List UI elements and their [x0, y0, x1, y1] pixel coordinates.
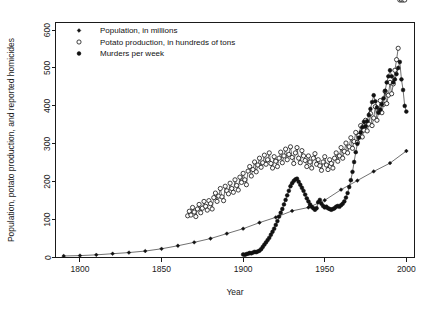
data-point	[396, 46, 400, 50]
data-point	[365, 119, 369, 123]
data-point	[346, 191, 350, 195]
data-point	[300, 149, 304, 153]
y-tick-label: 0	[43, 255, 53, 260]
data-point	[195, 207, 199, 211]
data-point	[282, 203, 286, 207]
y-axis-title: Population, potato production, and repor…	[6, 38, 16, 242]
data-point	[287, 189, 291, 193]
data-point	[318, 198, 322, 202]
data-point	[318, 164, 322, 168]
x-tick-label: 1900	[234, 264, 253, 274]
data-point	[310, 166, 314, 170]
data-point	[270, 166, 274, 170]
data-point	[404, 110, 408, 114]
data-point	[326, 167, 330, 171]
data-point	[373, 99, 377, 103]
y-tick-label: 100	[43, 212, 53, 226]
data-point	[280, 207, 284, 211]
data-point	[277, 215, 281, 219]
data-point	[302, 189, 306, 193]
data-point	[208, 202, 212, 206]
data-point	[350, 146, 354, 150]
data-point	[393, 77, 397, 81]
data-point	[403, 0, 407, 2]
data-point	[210, 207, 214, 211]
data-point	[202, 199, 206, 203]
data-point	[401, 88, 405, 92]
legend-label: Population, in millions	[100, 26, 177, 35]
data-point	[257, 156, 261, 160]
y-tick-label: 300	[43, 136, 53, 150]
data-point	[288, 145, 292, 149]
chart-canvas: 0100200300400500600 18001850190019502000…	[0, 0, 433, 312]
y-tick-label: 500	[43, 61, 53, 75]
data-point	[238, 175, 242, 179]
data-point	[375, 118, 379, 122]
data-point	[385, 80, 389, 84]
data-point	[231, 190, 235, 194]
data-point	[212, 196, 216, 200]
data-point	[369, 107, 373, 111]
data-point	[354, 150, 358, 154]
data-point	[233, 178, 237, 182]
data-point	[274, 223, 278, 227]
data-point	[293, 151, 297, 155]
data-point	[298, 161, 302, 165]
data-point	[342, 200, 346, 204]
data-point	[390, 74, 394, 78]
data-point	[388, 68, 392, 72]
data-point	[243, 178, 247, 182]
data-point	[190, 205, 194, 209]
legend-marker-filled-circle	[77, 52, 81, 56]
data-point	[331, 166, 335, 170]
data-point	[329, 161, 333, 165]
x-tick-label: 1950	[315, 264, 334, 274]
data-point	[403, 104, 407, 108]
data-point	[228, 181, 232, 185]
data-point	[218, 186, 222, 190]
data-point	[282, 154, 286, 158]
data-point	[319, 168, 323, 172]
data-point	[400, 77, 404, 81]
data-point	[344, 196, 348, 200]
y-tick-label: 600	[43, 23, 53, 37]
data-point	[316, 158, 320, 162]
data-point	[355, 142, 359, 146]
data-point	[323, 155, 327, 159]
data-point	[345, 151, 349, 155]
chart-background	[0, 0, 433, 312]
data-point	[341, 156, 345, 160]
data-point	[344, 141, 348, 145]
data-point	[372, 93, 376, 97]
data-point	[349, 178, 353, 182]
data-point	[235, 183, 239, 187]
data-point	[295, 145, 299, 149]
data-point	[275, 164, 279, 168]
data-point	[357, 136, 361, 140]
data-point	[285, 193, 289, 197]
legend-label: Potato production, in hundreds of tons	[100, 38, 235, 47]
data-point	[269, 161, 273, 165]
data-point	[303, 193, 307, 197]
data-point	[279, 150, 283, 154]
data-point	[223, 184, 227, 188]
data-point	[194, 214, 198, 218]
data-point	[244, 183, 248, 187]
data-point	[370, 123, 374, 127]
legend-marker-open-circle	[77, 40, 81, 44]
data-point	[221, 199, 225, 203]
data-point	[292, 161, 296, 165]
data-point	[259, 165, 263, 169]
x-tick-label: 1850	[152, 264, 171, 274]
data-point	[395, 72, 399, 76]
y-tick-label: 200	[43, 174, 53, 188]
data-point	[313, 152, 317, 156]
data-point	[352, 160, 356, 164]
x-tick-label: 2000	[397, 264, 416, 274]
data-point	[241, 171, 245, 175]
x-axis-title: Year	[226, 287, 243, 297]
data-point	[284, 198, 288, 202]
data-point	[267, 151, 271, 155]
data-point	[315, 206, 319, 210]
data-point	[283, 147, 287, 151]
